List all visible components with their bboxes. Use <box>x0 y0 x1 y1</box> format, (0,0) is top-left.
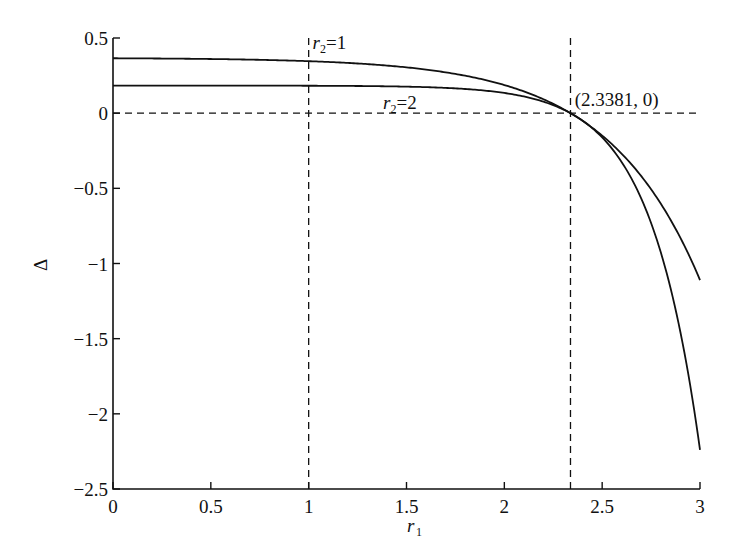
x-tick-label: 0 <box>108 496 118 517</box>
y-tick-label: 0 <box>99 103 109 124</box>
x-axis-label: r 1 <box>407 515 422 539</box>
annotation-intersection-point: (2.3381, 0) <box>575 89 659 111</box>
series-line-r2-2 <box>113 86 700 450</box>
x-axis-ticks: 00.511.522.53 <box>108 482 705 517</box>
x-axis-label-sub: 1 <box>416 525 422 539</box>
y-tick-label: −2.5 <box>74 479 108 500</box>
annotation-r2-2: r2=2 <box>383 92 417 116</box>
annotation-r2-1: r2=1 <box>313 32 347 56</box>
x-tick-label: 1.5 <box>395 496 419 517</box>
x-tick-label: 1 <box>304 496 314 517</box>
y-tick-label: −1.5 <box>74 329 108 350</box>
annotations: r2=1r2=2(2.3381, 0) <box>313 32 659 116</box>
x-tick-label: 2 <box>500 496 510 517</box>
data-series <box>113 58 700 450</box>
y-tick-label: 0.5 <box>84 28 108 49</box>
y-tick-label: −2 <box>88 404 108 425</box>
y-tick-label: −1 <box>88 254 108 275</box>
y-axis-label: Δ <box>30 259 51 271</box>
x-axis-label-main: r <box>407 515 415 536</box>
x-tick-label: 3 <box>695 496 705 517</box>
x-tick-label: 2.5 <box>590 496 614 517</box>
x-tick-label: 0.5 <box>199 496 223 517</box>
y-axis-label-text: Δ <box>30 259 51 271</box>
chart: 00.511.522.53 0.50−0.5−1−1.5−2−2.5 r2=1r… <box>0 0 734 559</box>
y-tick-label: −0.5 <box>74 178 108 199</box>
